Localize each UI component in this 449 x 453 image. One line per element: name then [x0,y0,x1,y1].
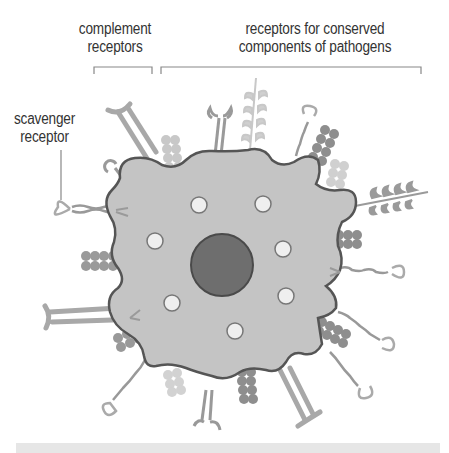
bead-chain-receptor-icon [163,368,186,397]
macrophage-diagram [0,0,449,453]
complement-receptor-icon [280,368,320,426]
scavenger-receptor-icon [103,360,145,415]
footer-bar [16,443,440,453]
wrench-receptor-icon [208,108,231,155]
complement-receptor-icon [45,306,118,328]
conserved-bracket [161,67,421,74]
nucleus [191,234,253,296]
wrench-receptor-icon [194,390,220,430]
scavenger-receptor-icon [330,352,372,398]
fern-receptor-icon [242,78,267,150]
fern-receptor-icon [355,182,428,214]
bead-chain-receptor-icon [326,159,349,189]
complement-bracket [94,67,152,74]
scavenger-receptor-icon [340,266,404,278]
complement-receptor-icon [108,104,156,160]
